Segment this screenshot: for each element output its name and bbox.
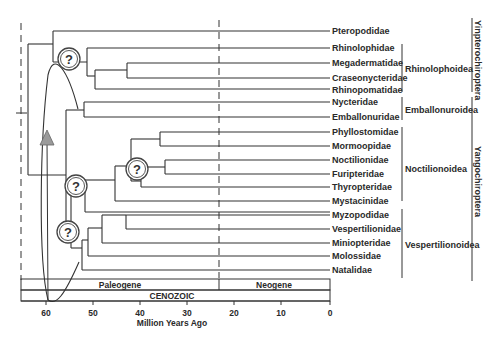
taxon-label: Phyllostomidae	[332, 127, 399, 137]
x-axis: 60 50 40 30 20 10 0 Million Years Ago	[21, 301, 333, 328]
taxon-label: Emballonuridae	[332, 112, 400, 122]
phylogeny-figure: ? ? ? ? Pteropodidae Rhinolophidae Megad…	[0, 0, 501, 343]
question-marker-icon: ?	[126, 158, 148, 180]
taxon-label: Nycteridae	[332, 97, 378, 107]
question-marker-icon: ?	[65, 175, 87, 197]
triangle-marker-icon	[40, 130, 54, 145]
taxon-label: Mormoopidae	[332, 141, 391, 151]
taxon-label: Pteropodidae	[332, 26, 390, 36]
taxon-label: Rhinopomatidae	[332, 85, 403, 95]
period-label-paleogene: Paleogene	[99, 280, 142, 290]
taxon-label: Rhinolophidae	[332, 43, 395, 53]
taxon-label: Megadermatidae	[332, 58, 403, 68]
x-tick-label: 50	[88, 308, 98, 318]
taxon-label: Furipteridae	[332, 169, 384, 179]
taxon-label: Miniopteridae	[332, 238, 391, 248]
question-marker-icon: ?	[58, 48, 80, 70]
x-tick-label: 10	[276, 308, 286, 318]
x-tick-label: 60	[41, 308, 51, 318]
group-label-rhinolophoidea: Rhinolophoidea	[405, 64, 474, 74]
group-label-noctilionoidea: Noctilionoidea	[405, 164, 468, 174]
group-label-emballonuroidea: Emballonuroidea	[405, 105, 479, 115]
taxon-labels: Pteropodidae Rhinolophidae Megadermatida…	[332, 26, 408, 275]
superfamily-brackets: Rhinolophoidea Emballonuroidea Noctilion…	[402, 44, 481, 278]
svg-text:?: ?	[65, 52, 73, 67]
x-tick-label: 20	[229, 308, 239, 318]
taxon-label: Mystacinidae	[332, 196, 389, 206]
svg-text:?: ?	[64, 225, 72, 240]
question-marker-icon: ?	[57, 221, 79, 243]
period-label-neogene: Neogene	[256, 280, 292, 290]
era-label-cenozoic: CENOZOIC	[150, 291, 195, 301]
taxon-label: Natalidae	[332, 265, 372, 275]
group-label-vespertilionoidea: Vespertilionoidea	[405, 240, 481, 250]
x-tick-label: 40	[135, 308, 145, 318]
taxon-label: Thyropteridae	[332, 182, 392, 192]
taxon-label: Craseonycteridae	[332, 73, 408, 83]
x-axis-title: Million Years Ago	[137, 318, 207, 328]
x-tick-label: 0	[328, 308, 333, 318]
x-tick-label: 30	[182, 308, 192, 318]
taxon-label: Myzopodidae	[332, 210, 389, 220]
loop-stem-line	[47, 140, 48, 300]
svg-text:?: ?	[72, 179, 80, 194]
group-label-yinpterochiroptera: Yinpterochiroptera	[473, 20, 483, 101]
group-label-yangochiroptera: Yangochiroptera	[473, 146, 483, 218]
svg-text:?: ?	[133, 162, 141, 177]
taxon-label: Vespertilionidae	[332, 224, 401, 234]
taxon-label: Molossidae	[332, 251, 381, 261]
geologic-timescale: Paleogene Neogene CENOZOIC	[21, 279, 330, 301]
taxon-label: Noctilionidae	[332, 155, 389, 165]
